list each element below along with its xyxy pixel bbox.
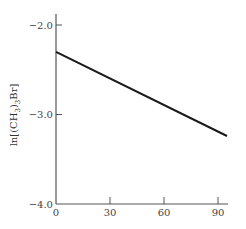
y-axis-label: ln[(CH3)3Br] xyxy=(8,84,22,147)
y-ticks: −2.0−3.0−4.0 xyxy=(29,20,62,210)
axes xyxy=(56,14,228,204)
y-tick-label: −2.0 xyxy=(29,20,53,31)
x-tick-label: 90 xyxy=(212,207,225,218)
x-tick-label: 0 xyxy=(53,207,59,218)
data-line xyxy=(56,52,227,136)
y-tick-label: −3.0 xyxy=(29,109,53,120)
chart: −2.0−3.0−4.0 0306090 ln[(CH3)3Br] xyxy=(0,0,246,229)
x-tick-label: 30 xyxy=(104,207,117,218)
series xyxy=(56,52,227,136)
y-tick-label: −4.0 xyxy=(29,199,53,210)
x-tick-label: 60 xyxy=(158,207,171,218)
x-ticks: 0306090 xyxy=(53,197,225,218)
